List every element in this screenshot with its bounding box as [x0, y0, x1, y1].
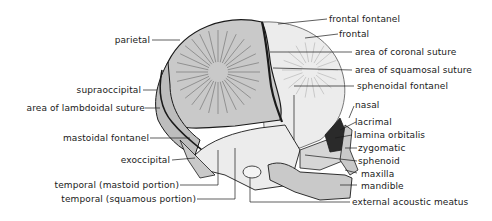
label-maxilla: maxilla — [361, 169, 394, 179]
label-area-of-squamosal-suture: area of squamosal suture — [355, 65, 472, 75]
label-zygomatic: zygomatic — [358, 143, 405, 153]
label-external-acoustic-meatus: external acoustic meatus — [352, 197, 468, 207]
label-area-of-lambdoidal-suture: area of lambdoidal suture — [27, 103, 145, 113]
label-sphenoid: sphenoid — [358, 156, 400, 166]
label-temporal-squamous-portion: temporal (squamous portion) — [61, 194, 196, 204]
label-parietal: parietal — [115, 35, 150, 45]
label-mastoidal-fontanel: mastoidal fontanel — [63, 133, 149, 143]
label-frontal-fontanel: frontal fontanel — [329, 14, 400, 24]
label-nasal: nasal — [355, 100, 379, 110]
external-acoustic-meatus-ring — [243, 166, 261, 178]
leader-nasal — [349, 106, 354, 118]
label-frontal: frontal — [339, 29, 369, 39]
parietal-bone — [159, 20, 282, 128]
label-lacrimal: lacrimal — [355, 117, 392, 127]
label-supraoccipital: supraoccipital — [77, 85, 141, 95]
label-area-of-coronal-suture: area of coronal suture — [355, 47, 456, 57]
label-sphenoidal-fontanel: sphenoidal fontanel — [357, 81, 448, 91]
label-temporal-mastoid-portion: temporal (mastoid portion) — [55, 180, 180, 190]
label-mandible: mandible — [361, 181, 404, 191]
leader-frontal-fontanel — [278, 19, 327, 24]
label-lamina-orbitalis: lamina orbitalis — [354, 130, 425, 140]
label-exoccipital: exoccipital — [121, 155, 170, 165]
